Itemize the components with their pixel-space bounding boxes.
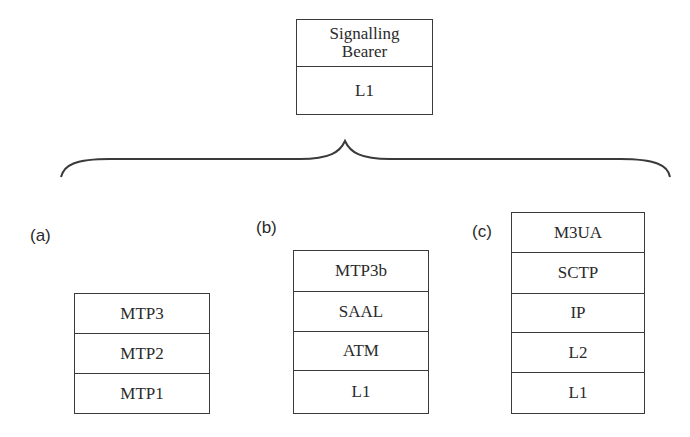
stack-c-label: (c) [472, 222, 492, 242]
stack-b: MTP3b SAAL ATM L1 [293, 250, 429, 414]
stack-a: MTP3 MTP2 MTP1 [74, 293, 210, 414]
layer-mtp3b: MTP3b [294, 251, 428, 292]
layer-saal: SAAL [294, 292, 428, 332]
stack-c: M3UA SCTP IP L2 L1 [511, 212, 645, 414]
layer-mtp2: MTP2 [75, 334, 209, 374]
stack-a-label: (a) [30, 226, 51, 246]
layer-ip: IP [512, 294, 644, 333]
layer-sctp: SCTP [512, 253, 644, 294]
layer-mtp1: MTP1 [75, 374, 209, 413]
stack-b-label: (b) [256, 218, 277, 238]
layer-l1: L1 [512, 373, 644, 413]
layer-mtp3: MTP3 [75, 294, 209, 334]
layer-l2: L2 [512, 333, 644, 373]
layer-m3ua: M3UA [512, 213, 644, 253]
layer-l1: L1 [294, 371, 428, 413]
layer-atm: ATM [294, 332, 428, 371]
